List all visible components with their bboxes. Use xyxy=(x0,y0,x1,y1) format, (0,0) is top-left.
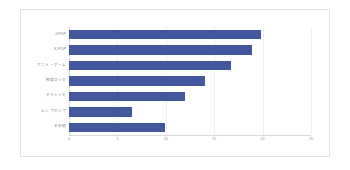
bar-row: K-POP xyxy=(69,45,311,55)
category-label: アニメ・ゲーム xyxy=(37,64,66,68)
bar xyxy=(69,92,185,102)
category-label: その他 xyxy=(54,125,66,129)
bar-row: アニメ・ゲーム xyxy=(69,61,311,71)
x-tick-label: 25 xyxy=(309,138,313,142)
bar-row: 邦楽ロック xyxy=(69,76,311,86)
category-label: ヒップホップ xyxy=(41,110,66,114)
chart-figure: J-POPK-POPアニメ・ゲーム邦楽ロッククラシックヒップホップその他 051… xyxy=(0,0,350,170)
bar xyxy=(69,30,261,40)
bar-row: J-POP xyxy=(69,30,311,40)
category-label: J-POP xyxy=(55,33,66,37)
bar xyxy=(69,76,205,86)
bar xyxy=(69,107,132,117)
bar-row: ヒップホップ xyxy=(69,107,311,117)
category-label: 邦楽ロック xyxy=(46,79,67,83)
x-tick-label: 15 xyxy=(212,138,216,142)
bar xyxy=(69,61,231,71)
gridline xyxy=(311,27,312,135)
plot-area: J-POPK-POPアニメ・ゲーム邦楽ロッククラシックヒップホップその他 xyxy=(69,27,311,135)
x-tick-label: 20 xyxy=(261,138,265,142)
bar xyxy=(69,123,165,133)
x-axis-line xyxy=(69,135,311,136)
category-label: K-POP xyxy=(54,48,66,52)
bar-row: その他 xyxy=(69,123,311,133)
category-label: クラシック xyxy=(46,95,67,99)
x-tick-label: 10 xyxy=(164,138,168,142)
x-tick-label: 5 xyxy=(116,138,118,142)
bar-row: クラシック xyxy=(69,92,311,102)
x-tick-label: 0 xyxy=(68,138,70,142)
chart-frame: J-POPK-POPアニメ・ゲーム邦楽ロッククラシックヒップホップその他 051… xyxy=(20,9,330,157)
bar xyxy=(69,45,252,55)
